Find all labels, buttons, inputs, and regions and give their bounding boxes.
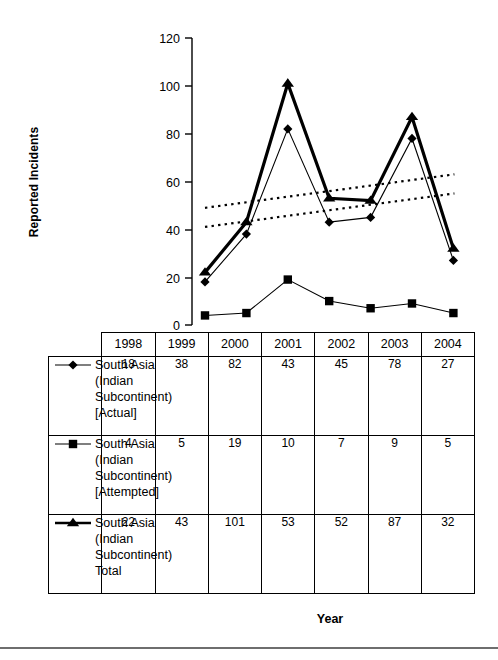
- upper-trendline: [205, 174, 454, 207]
- plot-area: 120 100 80 60 40 20 0: [0, 0, 498, 340]
- data-point-diamond: [366, 213, 375, 222]
- data-markers-group: [199, 78, 460, 319]
- legend-label: South Asia (Indian Subcontinent) [Attemp…: [95, 436, 172, 500]
- data-point-square: [408, 299, 416, 307]
- data-point-square: [284, 275, 292, 283]
- table-cell: 45: [315, 357, 368, 436]
- column-header-2004: 2004: [421, 333, 474, 357]
- data-table: 1998199920002001200220032004South Asia (…: [48, 332, 475, 594]
- data-point-diamond: [449, 256, 458, 265]
- y-tick-label-0: 0: [173, 319, 180, 333]
- table-cell: 52: [315, 515, 368, 594]
- chart-page: Reported Incidents 120 100 80 60 40 20: [0, 0, 498, 660]
- legend-swatch: [55, 515, 91, 531]
- legend-cell-diamond: South Asia (Indian Subcontinent) [Actual…: [49, 357, 102, 436]
- table-cell: 43: [262, 357, 315, 436]
- data-point-triangle: [240, 217, 252, 225]
- footer-divider: [0, 647, 498, 649]
- series-line-2: [205, 83, 453, 272]
- y-tick-label-20: 20: [166, 272, 180, 286]
- table-cell: 82: [208, 357, 261, 436]
- legend-entry: South Asia (Indian Subcontinent) [Attemp…: [49, 436, 101, 500]
- series-line-0: [205, 129, 453, 282]
- y-tick-label-120: 120: [159, 32, 180, 46]
- legend-swatch: [55, 357, 91, 373]
- triangle-marker-icon: [55, 515, 91, 531]
- table-header-row: 1998199920002001200220032004: [49, 333, 475, 357]
- data-point-triangle: [406, 112, 418, 120]
- table-cell: 87: [368, 515, 421, 594]
- table-corner-cell: [49, 333, 102, 357]
- table-cell: 5: [421, 436, 474, 515]
- y-tick-label-60: 60: [166, 176, 180, 190]
- data-point-square: [325, 297, 333, 305]
- data-point-triangle: [282, 78, 294, 86]
- legend-swatch: [55, 436, 91, 452]
- table-cell: 9: [368, 436, 421, 515]
- column-header-2003: 2003: [368, 333, 421, 357]
- square-marker-icon: [55, 436, 91, 452]
- column-header-2002: 2002: [315, 333, 368, 357]
- table-cell: 32: [421, 515, 474, 594]
- data-point-diamond: [325, 218, 334, 227]
- diamond-marker-icon: [55, 357, 91, 373]
- column-header-1998: 1998: [102, 333, 155, 357]
- legend-cell-triangle: South Asia (Indian Subcontinent) Total: [49, 515, 102, 594]
- y-tick-label-40: 40: [166, 224, 180, 238]
- data-point-square: [366, 304, 374, 312]
- data-point-square: [449, 309, 457, 317]
- table-cell: 53: [262, 515, 315, 594]
- table-row: South Asia (Indian Subcontinent) Total22…: [49, 515, 475, 594]
- legend-entry: South Asia (Indian Subcontinent) [Actual…: [49, 357, 101, 421]
- x-axis-title: Year: [184, 612, 476, 626]
- column-header-2000: 2000: [208, 333, 261, 357]
- data-point-square: [201, 311, 209, 319]
- column-header-1999: 1999: [155, 333, 208, 357]
- data-point-diamond: [407, 134, 416, 143]
- data-point-square: [242, 309, 250, 317]
- data-point-diamond: [283, 124, 292, 133]
- table-row: South Asia (Indian Subcontinent) [Actual…: [49, 357, 475, 436]
- table-cell: 101: [208, 515, 261, 594]
- table-row: South Asia (Indian Subcontinent) [Attemp…: [49, 436, 475, 515]
- table-cell: 19: [208, 436, 261, 515]
- y-tick-label-100: 100: [159, 80, 180, 94]
- table-cell: 7: [315, 436, 368, 515]
- table-cell: 10: [262, 436, 315, 515]
- legend-entry: South Asia (Indian Subcontinent) Total: [49, 515, 101, 579]
- column-header-2001: 2001: [262, 333, 315, 357]
- table-cell: 78: [368, 357, 421, 436]
- chart-svg: 120 100 80 60 40 20 0: [0, 0, 498, 340]
- y-axis-ticks: [185, 38, 192, 325]
- table-cell: 27: [421, 357, 474, 436]
- legend-cell-square: South Asia (Indian Subcontinent) [Attemp…: [49, 436, 102, 515]
- y-tick-label-80: 80: [166, 128, 180, 142]
